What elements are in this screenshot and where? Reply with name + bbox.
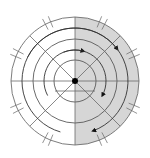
hash-mark: [43, 19, 49, 30]
hash-mark: [10, 54, 21, 59]
hash-mark: [48, 16, 53, 27]
concentric-rotation-diagram: [0, 0, 150, 158]
hash-mark: [13, 49, 24, 55]
hash-mark: [48, 135, 53, 146]
hash-mark: [10, 103, 21, 108]
hash-mark: [13, 108, 24, 114]
center-pivot-dot: [72, 78, 78, 84]
hash-mark: [43, 132, 49, 143]
